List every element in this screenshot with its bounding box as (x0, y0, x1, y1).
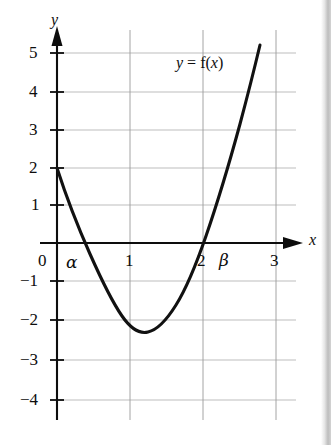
origin-label: 0 (38, 252, 47, 269)
horizontal-gridlines (57, 53, 296, 400)
x-tick-label-2: 2 (197, 252, 206, 269)
y-tick-label-neg2: −2 (20, 311, 38, 328)
y-axis-label: y (51, 12, 58, 28)
y-tick-label-neg4: −4 (20, 391, 38, 408)
curve-label-arg-x: x (211, 54, 218, 71)
x-tick-label-3: 3 (270, 252, 279, 269)
curve-label-eq-sign: = (187, 54, 196, 71)
x-tick-label-1: 1 (125, 252, 134, 269)
function-curve (57, 45, 260, 332)
curve-label-f: f( (200, 54, 211, 71)
y-tick-label-4: 4 (29, 83, 38, 100)
x-axis-label: x (309, 232, 316, 248)
vertical-gridlines (130, 30, 276, 420)
curve-equation-label: y = f(x) (176, 55, 223, 71)
root-alpha-label: α (66, 254, 77, 271)
y-tick-label-5: 5 (29, 44, 38, 61)
page-edge-shading (321, 0, 331, 445)
y-tick-label-neg3: −3 (20, 351, 38, 368)
curve-label-paren-close: ) (218, 54, 223, 71)
graph-figure: y x 5 4 3 2 1 −1 −2 −3 −4 0 1 2 3 α β y … (0, 0, 331, 445)
root-beta-label: β (219, 252, 229, 269)
y-tick-label-2: 2 (29, 159, 38, 176)
y-tick-label-1: 1 (31, 196, 40, 213)
x-axis (40, 237, 303, 249)
y-tick-label-neg1: −1 (20, 272, 38, 289)
y-tick-label-3: 3 (29, 121, 38, 138)
plot-canvas (0, 0, 331, 445)
